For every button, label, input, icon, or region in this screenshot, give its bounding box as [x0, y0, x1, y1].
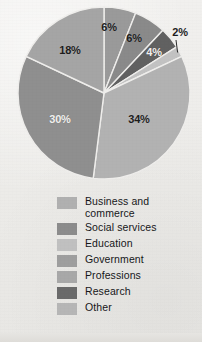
legend-swatch-icon	[57, 287, 77, 299]
legend-item-label: Professions	[85, 270, 141, 282]
legend-item-label: Government	[85, 254, 144, 266]
pie-label-business-and-commerce: 6%	[101, 21, 117, 33]
chart-legend: Business and commerceSocial servicesEduc…	[57, 196, 202, 318]
legend-item-1[interactable]: Social services	[57, 222, 202, 236]
pie-chart: 6%6%4%2%34%30%18%	[0, 0, 202, 190]
legend-item-5[interactable]: Research	[57, 286, 202, 300]
legend-swatch-icon	[57, 271, 77, 283]
pie-label-education: 34%	[128, 113, 149, 125]
legend-item-3[interactable]: Government	[57, 254, 202, 268]
legend-item-0[interactable]: Business and commerce	[57, 196, 202, 220]
pie-label-social-services: 6%	[126, 32, 142, 44]
legend-item-6[interactable]: Other	[57, 302, 202, 316]
legend-swatch-icon	[57, 197, 77, 209]
legend-item-label: Research	[85, 286, 131, 298]
pie-label-professions: 18%	[59, 44, 80, 56]
legend-item-label: Education	[85, 238, 133, 250]
pie-label-other: 2%	[172, 26, 188, 38]
legend-swatch-icon	[57, 255, 77, 267]
legend-item-4[interactable]: Professions	[57, 270, 202, 284]
pie-label-research: 4%	[146, 46, 162, 58]
legend-swatch-icon	[57, 223, 77, 235]
legend-item-label: Social services	[85, 222, 157, 234]
legend-item-label: Business and commerce	[85, 196, 202, 219]
pie-label-government: 30%	[49, 113, 70, 125]
page-bottom-edge	[0, 333, 202, 342]
legend-item-label: Other	[85, 302, 112, 314]
legend-swatch-icon	[57, 303, 77, 315]
legend-swatch-icon	[57, 239, 77, 251]
legend-item-2[interactable]: Education	[57, 238, 202, 252]
